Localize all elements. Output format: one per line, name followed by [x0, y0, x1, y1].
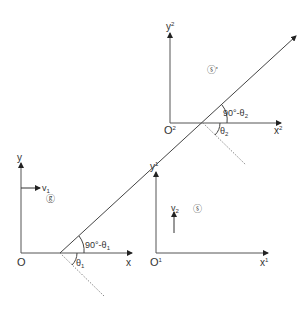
v1-label: v1: [42, 183, 51, 194]
frame2-origin-label: O2: [164, 124, 177, 136]
ground-origin-label: O: [17, 256, 26, 268]
angle-label-theta2: θ2: [220, 126, 229, 137]
frame2: y2 x2 O2 ⓢ': [164, 21, 283, 136]
frame1: y1 x1 O1 v2 ⓢ: [150, 161, 269, 268]
ground-frame-symbol: ⓖ: [46, 194, 55, 204]
frame2-y-label: y2: [166, 21, 175, 32]
ground-x-label: x: [126, 257, 131, 268]
frame2-x-label: x2: [274, 125, 283, 136]
frame1-x-label: x1: [260, 257, 269, 268]
ground-frame: y x O v1 ⓖ: [17, 152, 132, 268]
angle-arc-complement-lower: [79, 236, 84, 253]
angle-label-complement-1: 90°-θ1: [85, 240, 111, 251]
v2-label: v2: [171, 203, 180, 214]
angle-label-theta1: θ1: [76, 258, 85, 269]
ground-y-label: y: [17, 152, 22, 163]
frame1-symbol: ⓢ: [193, 204, 202, 214]
relative-motion-diagram: y x O v1 ⓖ y1 x1 O1 v2 ⓢ y2 x2 O2 ⓢ' 90°…: [0, 0, 305, 312]
normal-line-lower: [60, 253, 104, 296]
trajectory-line: [60, 36, 296, 253]
frame1-origin-label: O1: [150, 256, 163, 268]
angle-label-complement-2: 90°-θ2: [223, 108, 249, 119]
frame2-symbol: ⓢ': [207, 65, 218, 75]
